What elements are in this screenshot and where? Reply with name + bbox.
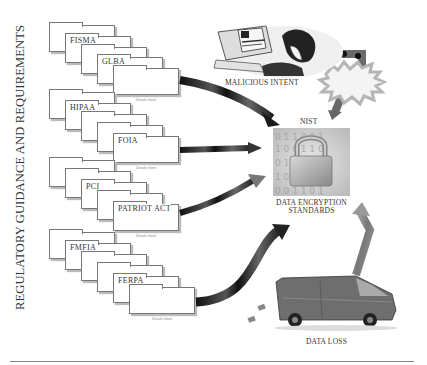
malicious-intent-illustration xyxy=(214,26,343,78)
encryption-lock-image: 0 1 1 0 0 1 1 0 0 1 1 0 0 1 0 0 1 1 1 0 … xyxy=(273,128,350,196)
arrow-dataloss-to-encryption xyxy=(352,202,370,275)
arrow-patriot-to-encryption xyxy=(180,174,266,213)
svg-text:0 0 1 1 0 1: 0 0 1 1 0 1 xyxy=(275,186,324,196)
standards-label: STANDARDS xyxy=(273,206,350,215)
data-loss-label: DATA LOSS xyxy=(306,337,347,346)
lost-data-chips xyxy=(247,304,265,323)
bottom-divider xyxy=(10,361,414,362)
arrow-ferpa-to-encryption xyxy=(196,224,290,302)
arrow-glba-to-nist xyxy=(180,80,280,127)
nist-label: NIST xyxy=(300,117,317,126)
diagram-graphics: 0 1 1 0 0 1 1 0 0 1 1 0 0 1 0 0 1 1 1 0 … xyxy=(0,0,427,365)
malicious-intent-label: MALICIOUS INTENT xyxy=(225,78,299,87)
delivery-van-image xyxy=(274,276,398,331)
arrow-foia-to-encryption xyxy=(180,142,262,154)
